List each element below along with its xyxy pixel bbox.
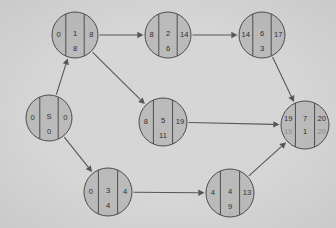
node-n5[interactable]: 851119	[139, 98, 187, 146]
graph-canvas: 0S00018882614146317851119197201912003444…	[0, 0, 336, 228]
node-cell-value: 4	[106, 201, 110, 210]
node-cell-value: 8	[144, 117, 148, 126]
node-cell-value: 1	[303, 127, 307, 136]
node-n7[interactable]: 1972019120	[281, 101, 329, 149]
node-cell-value: 6	[260, 29, 264, 38]
node-n3[interactable]: 0344	[84, 168, 132, 216]
edge-start-to-n3	[64, 137, 92, 172]
node-cell-value: 3	[260, 44, 264, 53]
edge-n6-to-n7	[273, 57, 295, 102]
node-cell-value: 8	[89, 30, 93, 39]
node-n4[interactable]: 44913	[206, 169, 254, 217]
node-cell-value: S	[46, 112, 51, 121]
node-cell-value: 7	[303, 114, 307, 123]
node-cell-value: 6	[166, 44, 170, 53]
node-cell-value: 11	[159, 131, 167, 140]
node-cell-value: 0	[89, 187, 93, 196]
node-cell-value: 4	[228, 187, 232, 196]
edge-n3-to-n4	[133, 190, 204, 196]
nodes-layer: 0S00018882614146317851119197201912003444…	[26, 12, 329, 217]
node-cell-value: 0	[57, 30, 61, 39]
node-n1[interactable]: 0188	[52, 12, 98, 58]
node-cell-value: 14	[241, 30, 249, 39]
edge-n5-to-n7	[188, 121, 279, 127]
edge-n1-to-n5	[92, 52, 144, 104]
node-cell-value: 19	[284, 127, 292, 136]
node-cell-value: 1	[73, 29, 77, 38]
node-start[interactable]: 0S00	[26, 95, 72, 141]
node-cell-value: 0	[47, 127, 51, 136]
node-cell-value: 9	[228, 202, 232, 211]
edge-n2-to-n6	[193, 32, 238, 38]
node-cell-value: 19	[284, 114, 292, 123]
node-cell-value: 20	[318, 114, 326, 123]
edge-n1-to-n2	[100, 32, 144, 38]
edge-n4-to-n7	[249, 142, 286, 176]
node-cell-value: 17	[274, 30, 282, 39]
node-cell-value: 0	[31, 113, 35, 122]
node-n2[interactable]: 82614	[145, 12, 191, 58]
node-cell-value: 20	[318, 127, 326, 136]
node-cell-value: 0	[63, 113, 67, 122]
node-cell-value: 8	[73, 44, 77, 53]
node-cell-value: 19	[176, 117, 184, 126]
node-cell-value: 4	[211, 188, 215, 197]
node-cell-value: 5	[161, 116, 165, 125]
node-cell-value: 14	[180, 30, 188, 39]
node-n6[interactable]: 146317	[239, 12, 285, 58]
node-cell-value: 2	[166, 29, 170, 38]
node-cell-value: 8	[150, 30, 154, 39]
node-cell-value: 13	[243, 188, 251, 197]
edge-start-to-n1	[56, 58, 69, 94]
node-cell-value: 4	[123, 187, 127, 196]
node-cell-value: 3	[106, 186, 110, 195]
network-diagram: 0S00018882614146317851119197201912003444…	[0, 0, 336, 228]
